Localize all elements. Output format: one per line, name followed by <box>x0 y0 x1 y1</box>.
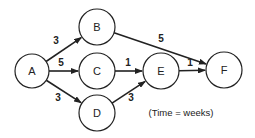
node-label: A <box>28 65 36 77</box>
node-a: A <box>15 54 49 88</box>
edge-d-e: 3 <box>112 81 145 103</box>
edges-layer: 3535131 <box>46 33 206 103</box>
caption-text: (Time = weeks) <box>149 107 214 118</box>
edge-weight-label: 5 <box>58 57 64 68</box>
node-label: E <box>157 65 164 77</box>
node-c: C <box>79 53 115 89</box>
edge-weight-label: 3 <box>53 35 59 46</box>
node-label: C <box>93 65 101 77</box>
edge-a-d: 3 <box>46 80 81 103</box>
arrow-icon <box>46 80 81 102</box>
edge-e-f: 1 <box>179 57 205 71</box>
node-d: D <box>79 95 115 131</box>
edge-weight-label: 5 <box>158 33 164 44</box>
edge-weight-label: 1 <box>187 57 193 68</box>
edge-c-e: 1 <box>115 57 142 71</box>
node-f: F <box>206 52 242 88</box>
node-label: F <box>221 64 228 76</box>
network-diagram: 3535131 ABCDEF (Time = weeks) <box>0 0 255 138</box>
edge-weight-label: 3 <box>128 92 134 103</box>
node-label: D <box>93 107 101 119</box>
edge-a-c: 5 <box>49 57 78 71</box>
node-b: B <box>79 9 115 45</box>
edge-weight-label: 3 <box>55 92 61 103</box>
edge-weight-label: 1 <box>125 57 131 68</box>
node-label: B <box>93 21 100 33</box>
node-e: E <box>143 53 179 89</box>
